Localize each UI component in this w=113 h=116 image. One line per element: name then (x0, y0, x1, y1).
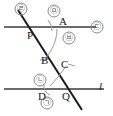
angle-label-5: ㉤ (50, 7, 58, 15)
point-label-c: C (61, 59, 68, 70)
geometry-figure: P A B C D Q l ㉣ ㉤ ㉢ ㉥ ㉡ ㉠ (0, 0, 113, 116)
angle-label-1: ㉠ (43, 99, 51, 107)
angle-label-4: ㉣ (17, 5, 25, 13)
point-label-p: P (27, 30, 33, 41)
angle-label-2: ㉡ (36, 76, 44, 84)
angle-arc-upper (48, 20, 52, 31)
figure-canvas (0, 0, 113, 116)
angle-label-6: ㉥ (65, 34, 73, 42)
point-label-b: B (41, 55, 48, 66)
line-label-l: l (99, 81, 102, 92)
angle-tick-c (68, 64, 75, 66)
point-label-a: A (59, 16, 67, 27)
angle-label-3: ㉢ (93, 23, 101, 31)
point-label-q: Q (62, 91, 70, 102)
